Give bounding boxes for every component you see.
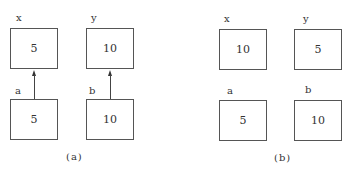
box-y: 5 bbox=[294, 29, 342, 70]
box-b: 10 bbox=[294, 100, 342, 141]
value-b: 10 bbox=[311, 114, 325, 127]
box-a: 5 bbox=[219, 100, 267, 141]
label-y: y bbox=[303, 14, 309, 24]
label-a: a bbox=[227, 86, 233, 96]
value-x: 10 bbox=[236, 43, 250, 56]
value-a: 5 bbox=[240, 114, 247, 127]
caption-b: (b) bbox=[274, 153, 291, 163]
value-y: 5 bbox=[315, 43, 322, 56]
label-x: x bbox=[224, 14, 230, 24]
label-b: b bbox=[305, 85, 311, 95]
box-x: 10 bbox=[219, 29, 267, 70]
panel-b: x 10 y 5 a 5 b 10 (b) bbox=[0, 0, 349, 169]
